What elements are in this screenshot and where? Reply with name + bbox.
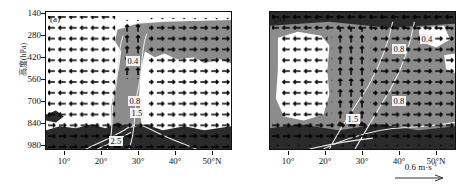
panel-a: (a) 0.4 0.8 1.5 2.5 (45, 11, 232, 150)
x-tick-label: 30° (356, 156, 369, 166)
y-tick-label: 140 (7, 8, 41, 18)
x-tick-label: 40° (169, 156, 182, 166)
contour-label-1.5: 1.5 (346, 114, 360, 124)
panel-b: (b) 0.4 0.8 0.8 1.5 (269, 11, 456, 150)
vector-scale-label: 0.6 m·s-1 (381, 160, 461, 172)
vector-scale-arrow-icon (393, 173, 449, 182)
contour-label-0.4: 0.4 (126, 56, 140, 66)
contour-label-2.5: 2.5 (109, 136, 123, 146)
panel-a-plot (46, 12, 231, 149)
contour-label-0.4: 0.4 (420, 34, 434, 44)
contour-label-0.8: 0.8 (392, 96, 406, 106)
x-axis-a: 10° 20° 30° 40° 50°N (45, 151, 232, 169)
x-tick-label: 10° (282, 156, 295, 166)
y-tick-label: 700 (7, 96, 41, 106)
y-tick-label: 420 (7, 52, 41, 62)
panel-a-tag: (a) (50, 14, 60, 24)
vector-scale-key: 0.6 m·s-1 (381, 160, 461, 182)
y-tick-label: 980 (7, 140, 41, 150)
figure-root: 高度(hPa) 140 280 420 560 700 840 980 (0, 0, 468, 189)
panel-b-tag: (b) (274, 14, 285, 24)
y-axis-tick-labels: 140 280 420 560 700 840 980 (5, 0, 41, 189)
panel-b-plot (270, 12, 455, 149)
x-tick-label: 20° (95, 156, 108, 166)
y-tick-label: 280 (7, 30, 41, 40)
x-tick-label: 30° (132, 156, 145, 166)
y-tick-label: 560 (7, 74, 41, 84)
contour-label-1.5: 1.5 (130, 108, 144, 118)
contour-label-0.8: 0.8 (128, 96, 142, 106)
x-tick-label: 50°N (202, 156, 221, 166)
x-tick-label: 10° (58, 156, 71, 166)
y-tick-label: 840 (7, 118, 41, 128)
contour-label-0.8: 0.8 (392, 44, 406, 54)
x-tick-label: 20° (319, 156, 332, 166)
